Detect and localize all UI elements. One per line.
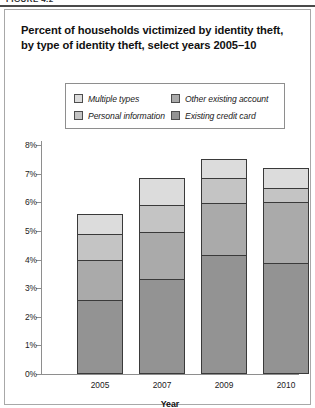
bar-segment <box>202 160 246 178</box>
bar-segment <box>78 300 122 373</box>
legend-swatch-icon <box>171 111 180 120</box>
legend-item-multiple-types: Multiple types <box>74 94 171 104</box>
bar-segment <box>264 263 308 373</box>
y-tick-label: 6% <box>25 197 37 207</box>
bar-segment <box>140 232 184 279</box>
bar-segment <box>264 188 308 202</box>
y-tick-label: 1% <box>25 340 37 350</box>
bar-2010 <box>263 168 309 374</box>
bar-segment <box>78 234 122 260</box>
y-tick-label: 0% <box>25 369 37 379</box>
bar-segment <box>78 215 122 234</box>
x-tick-label: 2007 <box>153 380 172 390</box>
legend-item-existing-credit-card: Existing credit card <box>171 111 278 121</box>
legend-swatch-icon <box>171 94 180 103</box>
figure-title: Percent of households victimized by iden… <box>21 23 299 52</box>
bar-segment <box>78 260 122 300</box>
legend-label: Personal information <box>88 111 165 121</box>
y-tick-label: 7% <box>25 169 37 179</box>
x-tick-label: 2005 <box>91 380 110 390</box>
bar-2005 <box>77 214 123 374</box>
y-tick-label: 4% <box>25 255 37 265</box>
bar-2009 <box>201 159 247 374</box>
legend-swatch-icon <box>74 94 83 103</box>
bar-2007 <box>139 178 185 374</box>
legend-item-other-existing-account: Other existing account <box>171 94 278 104</box>
bar-segment <box>140 179 184 206</box>
x-tick-label: 2009 <box>215 380 234 390</box>
x-tick-label: 2010 <box>277 380 296 390</box>
bar-segment <box>140 279 184 373</box>
figure-container: FIGURE 4.2 Percent of households victimi… <box>0 0 315 408</box>
y-tick-label: 5% <box>25 226 37 236</box>
legend-label: Multiple types <box>88 94 139 104</box>
legend-label: Other existing account <box>185 94 268 104</box>
y-tick-label: 3% <box>25 283 37 293</box>
bar-segment <box>202 203 246 254</box>
legend-item-personal-information: Personal information <box>74 111 171 121</box>
y-tick-label: 2% <box>25 312 37 322</box>
bar-segment <box>140 205 184 231</box>
plot-area: 0%1%2%3%4%5%6%7%8% 2005200720092010 Year <box>41 141 299 375</box>
y-axis-line <box>41 141 42 375</box>
bar-segment <box>202 255 246 373</box>
figure-number-fragment: FIGURE 4.2 <box>6 0 54 4</box>
y-tick-label: 8% <box>25 140 37 150</box>
figure-panel: Percent of households victimized by iden… <box>4 9 311 405</box>
legend-grid: Multiple types Other existing account Pe… <box>74 90 278 124</box>
bar-segment <box>264 169 308 189</box>
chart-legend: Multiple types Other existing account Pe… <box>65 83 285 129</box>
legend-swatch-icon <box>74 111 83 120</box>
bar-segment <box>264 202 308 263</box>
bar-segment <box>202 178 246 203</box>
legend-label: Existing credit card <box>185 111 256 121</box>
x-axis-title: Year <box>41 399 299 408</box>
header-rule <box>0 5 315 7</box>
x-axis-line <box>41 374 299 375</box>
